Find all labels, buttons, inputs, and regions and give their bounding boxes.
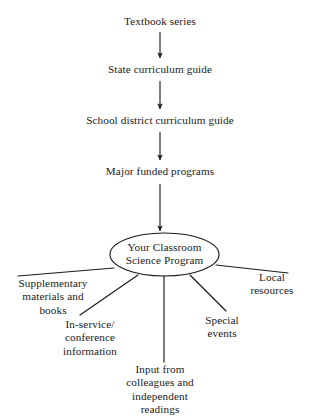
- flow-stage-state-guide: State curriculum guide: [108, 63, 212, 76]
- branch-label-input-from-colleagues: Input from colleagues and independent re…: [126, 363, 194, 417]
- branch-label-local-resources: Local resources: [250, 271, 293, 298]
- branch-line-special-events: [190, 275, 226, 311]
- branch-label-special-events: Special events: [205, 314, 239, 341]
- flow-stage-district-guide: School district curriculum guide: [86, 114, 234, 127]
- branch-line-in-service-conference: [80, 275, 138, 315]
- flow-stage-funded-programs: Major funded programs: [106, 165, 214, 178]
- diagram-canvas: Textbook seriesState curriculum guideSch…: [0, 0, 315, 419]
- branch-label-supplementary-materials: Supplementary materials and books: [18, 277, 87, 317]
- flow-stage-textbook-series: Textbook series: [124, 15, 196, 28]
- branch-label-in-service-conference: In-service/ conference information: [63, 318, 117, 358]
- hub-label-classroom-science-program: Your Classroom Science Program: [126, 241, 204, 268]
- branch-line-supplementary-materials: [18, 268, 114, 276]
